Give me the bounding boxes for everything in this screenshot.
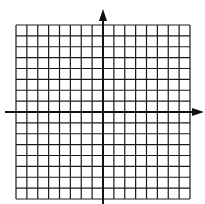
x-axis-arrow-icon xyxy=(192,108,204,116)
coordinate-plane xyxy=(0,0,205,204)
axes xyxy=(5,9,204,204)
y-axis-arrow-icon xyxy=(99,9,107,21)
